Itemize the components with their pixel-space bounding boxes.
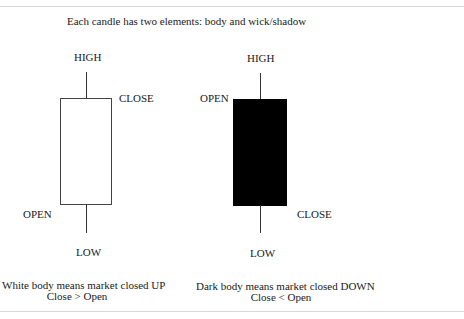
label-low: LOW: [76, 246, 101, 258]
lower-wick: [260, 205, 261, 233]
diagram-title: Each candle has two elements: body and w…: [67, 15, 306, 27]
label-open: OPEN: [23, 208, 52, 220]
label-open: OPEN: [200, 92, 229, 104]
label-low: LOW: [250, 247, 275, 259]
bottom-rule: [0, 311, 464, 312]
white-body: [60, 98, 112, 205]
top-rule: [0, 6, 464, 7]
bullish-caption-line2: Close > Open: [2, 290, 152, 302]
upper-wick: [86, 72, 87, 99]
lower-wick: [86, 204, 87, 233]
label-close: CLOSE: [119, 92, 154, 104]
dark-body: [233, 99, 287, 206]
bearish-caption-line2: Close < Open: [196, 291, 366, 303]
label-high: HIGH: [74, 51, 102, 63]
label-close: CLOSE: [297, 208, 332, 220]
label-high: HIGH: [247, 52, 275, 64]
upper-wick: [260, 73, 261, 100]
